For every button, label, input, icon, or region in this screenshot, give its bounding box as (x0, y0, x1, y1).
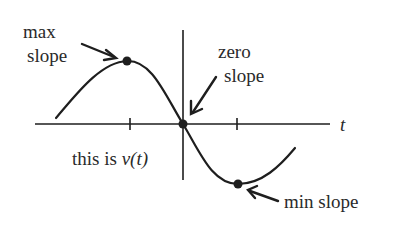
zero-slope-arrow (191, 77, 216, 114)
min-slope-arrow (248, 186, 278, 201)
t-axis-label: t (340, 114, 346, 135)
zero-slope-point (179, 120, 188, 129)
zero-slope-label-line1: zero (218, 41, 251, 62)
velocity-graph: max slope zero slope min slope this is v… (0, 0, 393, 227)
min-slope-point (234, 180, 243, 189)
min-slope-label: min slope (284, 191, 358, 212)
function-symbol: v(t) (122, 148, 148, 170)
function-label: this is v(t) (72, 148, 148, 170)
zero-slope-label-line2: slope (224, 65, 264, 86)
max-slope-point (123, 57, 132, 66)
function-label-prefix: this is (72, 148, 122, 169)
max-slope-label-line2: slope (27, 45, 67, 66)
max-slope-arrow (82, 44, 116, 60)
max-slope-label-line1: max (23, 21, 56, 42)
